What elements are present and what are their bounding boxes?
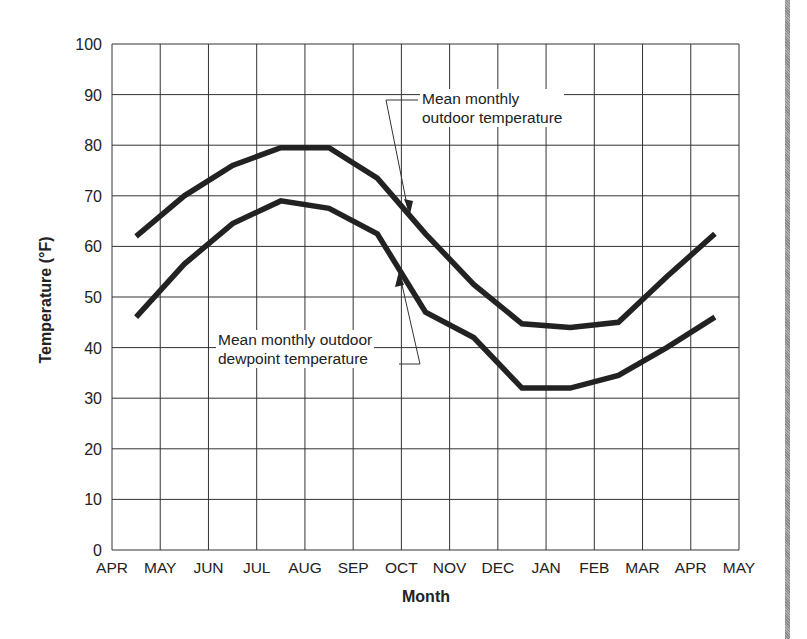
- x-tick-label: OCT: [385, 559, 418, 576]
- x-tick-label: MAR: [625, 559, 659, 576]
- annotation-line: Mean monthly: [422, 89, 562, 108]
- x-tick-label: APR: [675, 559, 707, 576]
- x-tick-label: JUN: [193, 559, 223, 576]
- annotation-outdoor-temperature: Mean monthly outdoor temperature: [420, 89, 564, 127]
- y-tick-label: 10: [84, 491, 102, 508]
- x-axis-title: Month: [402, 588, 450, 606]
- annotation-dewpoint-temperature: Mean monthly outdoor dewpoint temperatur…: [216, 330, 374, 368]
- y-tick-label: 100: [75, 36, 102, 53]
- x-tick-label: JAN: [531, 559, 560, 576]
- y-tick-label: 80: [84, 137, 102, 154]
- annotation-line: dewpoint temperature: [218, 349, 372, 368]
- y-axis-title: Temperature (°F): [37, 236, 55, 363]
- y-tick-label: 40: [84, 340, 102, 357]
- x-tick-label: APR: [96, 559, 128, 576]
- x-tick-labels: APRMAYJUNJULAUGSEPOCTNOVDECJANFEBMARAPRM…: [96, 559, 755, 576]
- y-tick-labels: 0102030405060708090100: [75, 36, 102, 559]
- x-tick-label: SEP: [338, 559, 369, 576]
- x-tick-label: DEC: [481, 559, 514, 576]
- annotation-line: Mean monthly outdoor: [218, 330, 372, 349]
- annotation-line: outdoor temperature: [422, 108, 562, 127]
- x-tick-label: NOV: [433, 559, 467, 576]
- annotation-leaders: [386, 100, 420, 364]
- x-tick-label: AUG: [288, 559, 322, 576]
- x-tick-label: MAY: [144, 559, 176, 576]
- y-tick-label: 50: [84, 289, 102, 306]
- x-tick-label: FEB: [579, 559, 609, 576]
- y-tick-label: 0: [93, 542, 102, 559]
- y-tick-label: 20: [84, 441, 102, 458]
- y-tick-label: 90: [84, 87, 102, 104]
- outdoor-temperature-line: [136, 148, 715, 328]
- x-tick-label: JUL: [243, 559, 271, 576]
- x-tick-label: MAY: [723, 559, 755, 576]
- chart-canvas: 0102030405060708090100 APRMAYJUNJULAUGSE…: [0, 0, 807, 639]
- y-tick-label: 70: [84, 188, 102, 205]
- y-tick-label: 60: [84, 238, 102, 255]
- y-tick-label: 30: [84, 390, 102, 407]
- page-edge-divider: [785, 0, 790, 639]
